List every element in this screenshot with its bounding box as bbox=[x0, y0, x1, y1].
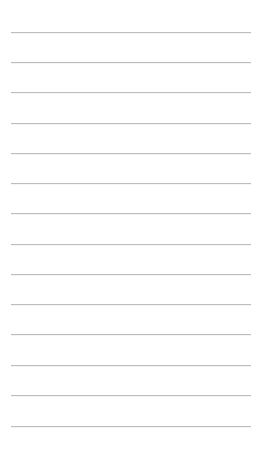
ruled-line bbox=[11, 365, 251, 366]
lined-page bbox=[0, 0, 259, 456]
ruled-line bbox=[11, 183, 251, 184]
ruled-line bbox=[11, 92, 251, 93]
ruled-line bbox=[11, 244, 251, 245]
ruled-line bbox=[11, 123, 251, 124]
ruled-line bbox=[11, 32, 251, 33]
ruled-line bbox=[11, 334, 251, 335]
ruled-line bbox=[11, 395, 251, 396]
ruled-line bbox=[11, 426, 251, 427]
ruled-line bbox=[11, 274, 251, 275]
ruled-line bbox=[11, 213, 251, 214]
ruled-line bbox=[11, 62, 251, 63]
ruled-line bbox=[11, 304, 251, 305]
ruled-line bbox=[11, 153, 251, 154]
